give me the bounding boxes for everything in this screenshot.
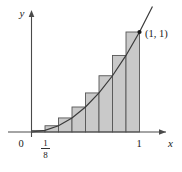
point-coordinate-label: (1, 1) (145, 28, 168, 40)
riemann-rectangles (32, 32, 140, 132)
riemann-sum-plot: y x 0 1 8 1 (1, 1) (0, 0, 182, 172)
y-axis-arrow-icon (29, 10, 35, 17)
y-axis-label: y (19, 7, 25, 19)
curve-endpoint-dot (137, 30, 141, 34)
fraction-numerator: 1 (43, 138, 48, 148)
x-axis-arrow-icon (159, 129, 166, 135)
riemann-sum-figure: y x 0 1 8 1 (1, 1) (0, 0, 182, 172)
riemann-rect-4 (72, 107, 86, 132)
x-axis-label: x (167, 137, 173, 149)
fraction-denominator: 8 (43, 150, 48, 160)
riemann-rect-7 (113, 55, 127, 132)
riemann-rect-8 (126, 32, 140, 132)
x-tick-one-label: 1 (137, 138, 142, 149)
x-tick-one-eighth: 1 8 (41, 138, 50, 160)
riemann-rect-5 (86, 93, 100, 132)
origin-label: 0 (19, 138, 24, 149)
